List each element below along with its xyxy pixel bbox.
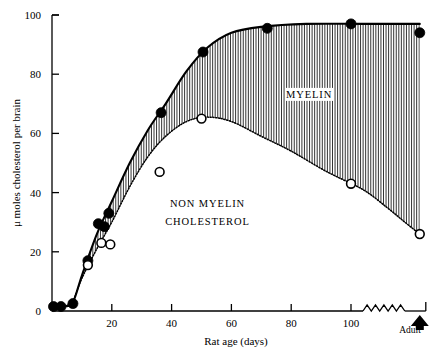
- data-point-non-myelin: [106, 240, 115, 249]
- adult-axis-label: Adult: [399, 325, 421, 335]
- x-axis-title: Rat age (days): [204, 335, 268, 348]
- x-tick-label: 60: [226, 317, 238, 329]
- plot-annotations: MYELINNON MYELINCHOLESTEROL: [165, 88, 333, 228]
- x-tick-label: 20: [106, 317, 118, 329]
- x-tick-label: 40: [166, 317, 178, 329]
- figure-container: 020406080100 20406080100 MYELINNON MYELI…: [0, 0, 430, 357]
- data-point-non-myelin: [197, 114, 206, 123]
- total-cholesterol-curve: [55, 24, 420, 308]
- y-axis-ticks: 020406080100: [25, 9, 60, 317]
- region-label: CHOLESTEROL: [165, 216, 250, 227]
- data-point-non-myelin: [83, 261, 92, 270]
- data-point-total: [198, 47, 208, 57]
- x-tick-label: 80: [286, 317, 298, 329]
- data-point-total: [99, 222, 109, 232]
- y-axis-title: μ moles cholesterol per brain: [10, 98, 22, 227]
- data-point-non-myelin: [97, 239, 106, 248]
- y-tick-label: 40: [30, 187, 42, 199]
- y-tick-label: 20: [30, 246, 42, 258]
- data-point-total: [104, 208, 114, 218]
- y-tick-label: 100: [25, 9, 42, 21]
- data-point-total: [262, 23, 272, 33]
- y-tick-label: 80: [30, 68, 42, 80]
- axes: [52, 15, 426, 311]
- data-point-total: [68, 299, 78, 309]
- data-point-non-myelin: [415, 230, 424, 239]
- myelin-hatch-fill: [52, 8, 422, 311]
- x-tick-label: 100: [343, 317, 360, 329]
- data-point-non-myelin: [155, 167, 164, 176]
- data-point-total: [156, 108, 166, 118]
- non-myelin-cholesterol-curve: [73, 117, 420, 302]
- data-point-non-myelin: [347, 179, 356, 188]
- cholesterol-chart: 020406080100 20406080100 MYELINNON MYELI…: [0, 0, 430, 357]
- region-label: NON MYELIN: [170, 198, 245, 209]
- y-tick-label: 60: [30, 127, 42, 139]
- zigzag-break: [363, 305, 405, 311]
- x-axis-ticks: 20406080100: [106, 302, 426, 329]
- data-point-total: [346, 19, 356, 29]
- data-point-total: [56, 302, 66, 312]
- region-label: MYELIN: [286, 89, 332, 100]
- y-tick-label: 0: [36, 305, 42, 317]
- data-point-total: [415, 28, 425, 38]
